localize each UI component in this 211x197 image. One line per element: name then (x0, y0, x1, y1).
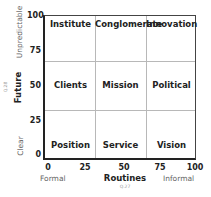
y-axis-code: Q.28 (3, 77, 9, 97)
cell-innovation: Innovation (146, 19, 197, 29)
cell-institute: Institute (45, 19, 96, 29)
x-axis-title: Routines (99, 173, 151, 183)
cell-vision: Vision (146, 140, 197, 150)
matrix-plot-area: Institute Conglomerate Innovation Client… (43, 15, 196, 160)
cell-position: Position (45, 140, 96, 150)
cell-mission: Mission (95, 80, 146, 90)
cell-conglomerate: Conglomerate (95, 19, 146, 29)
x-tick-50: 50 (112, 163, 136, 172)
y-tick-50: 50 (27, 81, 41, 90)
x-axis-code: Q.27 (99, 184, 151, 189)
cell-clients: Clients (45, 80, 96, 90)
x-tick-0: 0 (36, 163, 60, 172)
grid-line-horizontal-2 (45, 110, 195, 111)
grid-line-horizontal-1 (45, 61, 195, 62)
x-tick-75: 75 (148, 163, 172, 172)
y-high-label: Unpredictable (15, 2, 25, 62)
x-tick-100: 100 (183, 163, 207, 172)
y-tick-0: 0 (27, 150, 41, 159)
x-low-label: Formal (40, 174, 66, 183)
x-high-label: Informal (163, 174, 194, 183)
cell-service: Service (95, 140, 146, 150)
x-tick-25: 25 (73, 163, 97, 172)
y-axis-title: Future (13, 68, 24, 108)
y-tick-100: 100 (27, 11, 41, 20)
y-tick-25: 25 (27, 116, 41, 125)
y-low-label: Clear (16, 131, 26, 161)
cell-political: Political (146, 80, 197, 90)
y-tick-75: 75 (27, 46, 41, 55)
